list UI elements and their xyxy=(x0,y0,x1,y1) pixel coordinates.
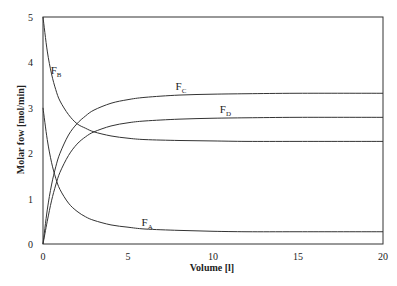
series-line-fd xyxy=(43,117,383,244)
x-tick-label: 0 xyxy=(41,251,46,262)
series-label-fc: FC xyxy=(176,80,187,95)
plot-frame xyxy=(43,17,383,244)
chart: 05101520 012345 FAFBFCFD Volume [l] Mola… xyxy=(0,0,397,286)
y-tick-label: 4 xyxy=(28,57,33,68)
series-label-fd: FD xyxy=(220,103,231,118)
x-axis-label: Volume [l] xyxy=(190,262,234,273)
y-tick-label: 2 xyxy=(28,148,33,159)
x-tick-label: 15 xyxy=(293,251,303,262)
y-tick-label: 1 xyxy=(28,194,33,205)
series-line-fb xyxy=(43,17,383,141)
y-tick-label: 0 xyxy=(28,239,33,250)
x-tick-label: 20 xyxy=(378,251,388,262)
x-tick-label: 10 xyxy=(208,251,218,262)
series-line-fc xyxy=(43,93,383,244)
x-tick-label: 5 xyxy=(126,251,131,262)
y-tick-label: 3 xyxy=(28,103,33,114)
y-axis-label: Molar fow [mol/min] xyxy=(15,85,26,174)
y-tick-label: 5 xyxy=(28,12,33,23)
series-line-fa xyxy=(43,108,383,232)
